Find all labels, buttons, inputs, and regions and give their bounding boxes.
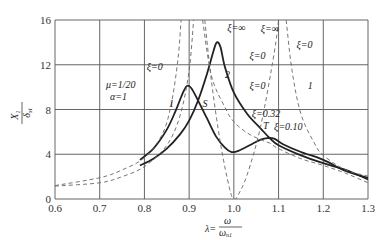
grid bbox=[55, 20, 368, 199]
solid-curve bbox=[140, 86, 368, 178]
y-axis-label: X1 δst bbox=[9, 102, 34, 124]
annotation-label: ξ=0 bbox=[250, 50, 266, 62]
annotation-label: ξ=0 bbox=[147, 61, 163, 73]
y-tick-label: 16 bbox=[40, 14, 52, 26]
y-tick-label: 12 bbox=[40, 59, 51, 71]
y-tick-label: 4 bbox=[46, 148, 52, 160]
annotation-label: S bbox=[203, 98, 208, 109]
param-mu: μ=1/20 bbox=[105, 79, 136, 90]
x-tick-label: 1.3 bbox=[361, 202, 375, 214]
dashed-curve bbox=[55, 20, 181, 186]
x-tick-label: 0.9 bbox=[182, 202, 196, 214]
svg-text:λ=: λ= bbox=[204, 223, 216, 234]
x-axis-label: λ= ω ωn1 bbox=[204, 215, 242, 238]
annotation-label: ξ=0 bbox=[250, 80, 266, 92]
svg-text:ω: ω bbox=[224, 215, 231, 226]
x-tick-label: 1.2 bbox=[316, 202, 330, 214]
svg-text:δst: δst bbox=[21, 107, 34, 117]
annotation-label: ξ=0 bbox=[296, 39, 312, 51]
annotation-label: 1 bbox=[169, 98, 174, 109]
dashed-curve bbox=[203, 20, 368, 183]
x-tick-label: 0.7 bbox=[93, 202, 107, 214]
svg-text:ωn1: ωn1 bbox=[219, 227, 232, 238]
annotation-label: ξ=∞ bbox=[227, 22, 245, 34]
y-tick-label: 0 bbox=[46, 193, 52, 205]
annotation-label: 1 bbox=[308, 80, 313, 91]
annotation-label: 2 bbox=[225, 69, 230, 80]
param-alpha: α=1 bbox=[110, 91, 127, 102]
x-tick-label: 1.0 bbox=[227, 202, 241, 214]
annotation-label: T bbox=[263, 120, 270, 131]
annotation-label: ξ=∞ bbox=[261, 23, 279, 35]
chart: 0.60.70.80.91.01.11.21.30481216 ξ=0ξ=∞ξ=… bbox=[0, 0, 385, 240]
annotation-label: ξ=0.10 bbox=[274, 121, 303, 133]
x-tick-label: 1.1 bbox=[272, 202, 286, 214]
x-tick-label: 0.8 bbox=[138, 202, 152, 214]
y-tick-label: 8 bbox=[46, 104, 52, 116]
